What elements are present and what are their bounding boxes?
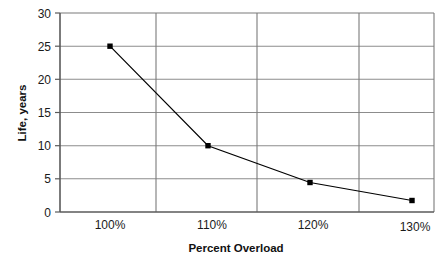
chart-page: 30 25 20 15 10 5 0 100% 110% 120% 130% L… bbox=[0, 0, 448, 259]
data-point-120 bbox=[307, 180, 312, 185]
x-axis-tick-labels: 100% 110% 120% 130% bbox=[95, 218, 431, 234]
xtick-label-100: 100% bbox=[95, 218, 126, 232]
data-point-110 bbox=[205, 143, 210, 148]
ytick-label-30: 30 bbox=[38, 7, 52, 21]
ytick-label-25: 25 bbox=[38, 40, 52, 54]
data-point-100 bbox=[107, 44, 112, 49]
xtick-label-130: 130% bbox=[400, 220, 431, 234]
data-point-130 bbox=[409, 198, 414, 203]
ytick-label-20: 20 bbox=[38, 73, 52, 87]
ytick-label-15: 15 bbox=[38, 106, 52, 120]
ytick-label-10: 10 bbox=[38, 139, 52, 153]
ytick-label-5: 5 bbox=[44, 172, 51, 186]
ytick-label-0: 0 bbox=[44, 206, 51, 220]
xtick-label-120: 120% bbox=[298, 218, 329, 232]
y-axis-title: Life, years bbox=[16, 85, 28, 142]
line-chart: 30 25 20 15 10 5 0 100% 110% 120% 130% L… bbox=[0, 0, 448, 259]
y-axis-tick-labels: 30 25 20 15 10 5 0 bbox=[38, 7, 52, 220]
x-axis-title: Percent Overload bbox=[188, 242, 283, 254]
xtick-label-110: 110% bbox=[197, 218, 227, 232]
